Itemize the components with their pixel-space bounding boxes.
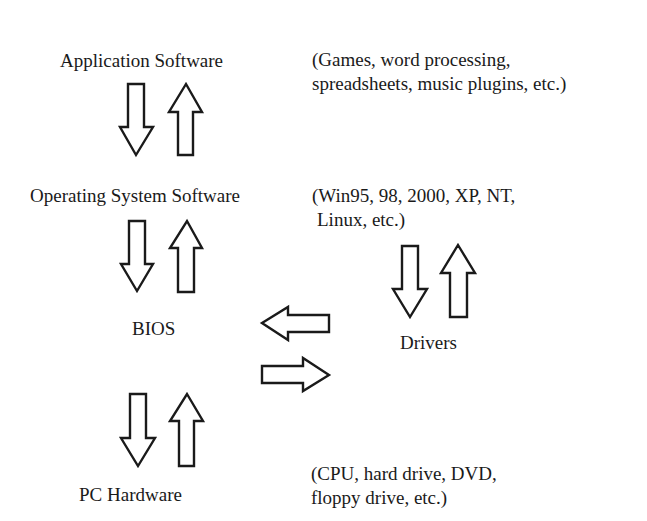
arrow-up-icon bbox=[441, 245, 475, 317]
arrow-down-icon bbox=[393, 246, 427, 317]
arrow-down-icon bbox=[120, 84, 153, 155]
arrow-up-icon bbox=[170, 221, 202, 292]
arrow-down-icon bbox=[121, 221, 153, 291]
arrow-down-icon bbox=[121, 394, 155, 466]
arrows-layer bbox=[0, 0, 647, 521]
arrow-right-icon bbox=[262, 358, 329, 391]
arrow-left-icon bbox=[262, 307, 329, 340]
arrow-up-icon bbox=[169, 84, 202, 155]
arrow-up-icon bbox=[170, 394, 203, 466]
